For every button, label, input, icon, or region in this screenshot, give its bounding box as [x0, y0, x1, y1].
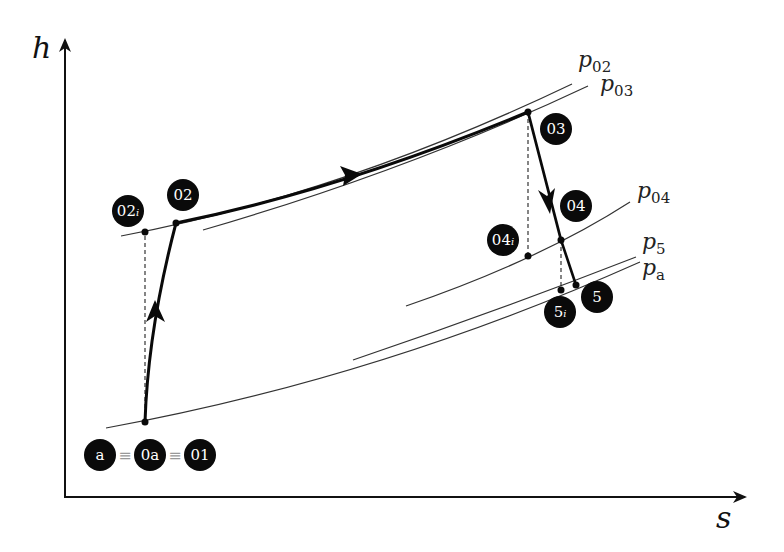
point-5	[573, 282, 580, 289]
state-points	[142, 109, 580, 426]
badge-02i: 02i	[112, 195, 144, 227]
svg-text:01: 01	[190, 446, 209, 464]
point-5i	[558, 287, 565, 294]
isobar-labels: p02 p03 p04 p5 pa	[578, 47, 670, 284]
point-02	[173, 220, 180, 227]
label-p5: p5	[642, 229, 666, 258]
svg-text:a: a	[96, 446, 105, 464]
point-04i	[525, 253, 532, 260]
svg-text:04: 04	[566, 197, 585, 215]
h-axis-label: h	[32, 30, 51, 65]
isobar-p02	[121, 84, 572, 236]
badge-02: 02	[167, 179, 199, 211]
point-03	[525, 109, 532, 116]
svg-text:5: 5	[592, 288, 602, 306]
point-04	[558, 237, 565, 244]
badge-5i: 5i	[544, 296, 576, 328]
svg-text:04i: 04i	[492, 231, 514, 249]
equiv-symbol-2: ≡	[168, 446, 181, 465]
process-compression	[145, 223, 176, 422]
process-heat-addition	[176, 112, 528, 223]
svg-text:02: 02	[173, 186, 192, 204]
badge-5: 5	[581, 281, 613, 313]
svg-text:02i: 02i	[117, 202, 139, 220]
label-p03: p03	[600, 71, 633, 100]
svg-text:03: 03	[546, 120, 565, 138]
label-pa: pa	[642, 255, 665, 284]
label-p04: p04	[637, 178, 670, 207]
isentropic-lines	[145, 112, 561, 422]
badge-0a: 0a	[134, 439, 166, 471]
hs-diagram: h s p02 p03 p04 p5 pa	[0, 0, 784, 552]
svg-text:0a: 0a	[141, 446, 160, 464]
isobar-p03	[203, 86, 588, 230]
badge-a: a	[84, 439, 116, 471]
badge-03: 03	[540, 113, 572, 145]
equiv-symbol-1: ≡	[118, 446, 131, 465]
point-02i	[142, 229, 149, 236]
process-lines	[145, 112, 576, 422]
badge-04: 04	[560, 190, 592, 222]
point-01	[142, 419, 149, 426]
badge-01: 01	[184, 439, 216, 471]
badge-04i: 04i	[487, 224, 519, 256]
process-nozzle-expansion	[561, 240, 576, 285]
s-axis-label: s	[716, 500, 731, 535]
